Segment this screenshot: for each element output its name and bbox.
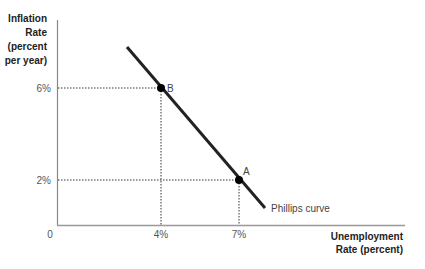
y-tick-2: 2%: [37, 175, 52, 186]
origin-label: 0: [47, 229, 53, 240]
curve-label: Phillips curve: [271, 203, 330, 214]
x-tick-4: 4%: [154, 229, 169, 240]
y-axis-label-line-1: Inflation: [8, 13, 47, 24]
phillips-curve-line: [127, 47, 265, 208]
y-axis-label-line-2: Rate: [25, 27, 47, 38]
point-a-label: A: [243, 166, 250, 177]
point-b-label: B: [167, 83, 174, 94]
x-axis-label-line-1: Unemployment: [331, 231, 404, 242]
y-axis-label-line-4: per year): [5, 55, 47, 66]
point-b: [157, 84, 165, 92]
y-axis-label-line-3: (percent: [8, 41, 48, 52]
y-tick-6: 6%: [37, 83, 52, 94]
x-tick-7: 7%: [232, 229, 247, 240]
phillips-curve-chart: Inflation Rate (percent per year) B A Ph…: [0, 0, 425, 269]
point-a: [235, 176, 243, 184]
x-axis-label-line-2: Rate (percent): [336, 244, 403, 255]
